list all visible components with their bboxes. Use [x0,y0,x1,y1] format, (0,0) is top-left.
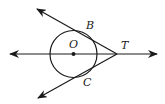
label-t: T [121,40,128,51]
label-c: C [83,77,91,88]
tangent-ray-tc [38,54,117,98]
center-point-o [72,52,76,56]
label-b: B [86,20,94,31]
label-o: O [69,39,78,50]
tangent-diagram: B O T C [0,0,165,104]
